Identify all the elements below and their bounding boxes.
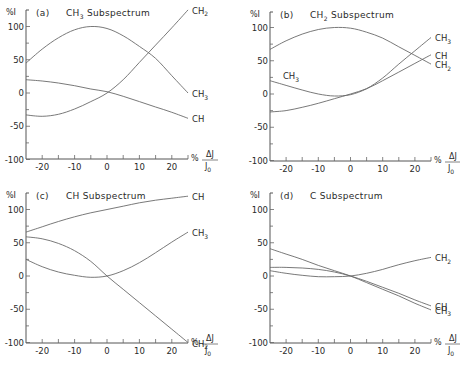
curve-label-ch3: CH3: [435, 33, 451, 45]
curve-ch3: [26, 232, 188, 277]
curve-annotation: CH3: [283, 71, 299, 83]
x-axis-label-numerator: ΔJ: [449, 334, 457, 343]
x-tick-label: 10: [134, 162, 145, 172]
curve-ch2: [26, 10, 188, 116]
x-tick-label: 0: [104, 162, 109, 172]
x-tick-label: -10: [68, 346, 82, 356]
y-tick-label: -50: [10, 121, 24, 131]
panel-tag: (b): [280, 10, 294, 20]
x-tick-label: 10: [377, 164, 388, 174]
curve-ch: [270, 267, 431, 306]
x-tick-label: 20: [166, 346, 177, 356]
panel-b: -100-50050100-20-1001020%I%ΔJJ0(b)CH2 Su…: [249, 10, 460, 175]
x-tick-label: 10: [377, 346, 388, 356]
y-tick-label: 100: [8, 205, 24, 215]
y-tick-label: -100: [5, 155, 24, 165]
panel-title: CH3 Subspectrum: [66, 8, 150, 20]
y-tick-label: -50: [10, 304, 24, 314]
x-tick-label: 20: [166, 162, 177, 172]
y-tick-label: 0: [19, 271, 24, 281]
y-tick-label: -100: [5, 338, 24, 348]
panel-c: -100-50050100-20-1001020%I%ΔJJ0(c)CH Sub…: [5, 191, 218, 357]
curve-ch3: [270, 38, 431, 97]
x-tick-label: 10: [134, 346, 145, 356]
subspectra-chart-grid: -100-50050100-20-1001020%I%ΔJJ0(a)CH3 Su…: [0, 0, 460, 367]
curve-ch3: [270, 249, 431, 310]
y-tick-label: 100: [252, 23, 268, 33]
x-axis-label-denominator: J0: [204, 162, 211, 173]
curve-label-ch3: CH3: [435, 306, 451, 318]
x-tick-label: -20: [35, 346, 49, 356]
curve-label-ch3: CH3: [192, 89, 208, 101]
x-tick-label: -10: [68, 162, 82, 172]
x-tick-label: -10: [311, 164, 325, 174]
panel-title: C Subspectrum: [310, 191, 383, 201]
x-axis-label-numerator: ΔJ: [206, 150, 214, 159]
x-tick-label: 20: [409, 346, 420, 356]
y-tick-label: 100: [8, 22, 24, 32]
curve-label-ch2: CH2: [435, 253, 451, 265]
x-tick-label: -20: [279, 164, 293, 174]
x-tick-label: 0: [348, 164, 353, 174]
x-tick-label: 20: [409, 164, 420, 174]
x-tick-label: -20: [279, 346, 293, 356]
y-tick-label: -100: [249, 338, 268, 348]
curve-ch: [270, 55, 431, 112]
y-axis-label: %I: [250, 191, 260, 200]
panel-tag: (d): [280, 191, 294, 201]
panel-title: CH2 Subspectrum: [310, 10, 394, 22]
curve-label-ch3: CH3: [192, 228, 208, 240]
panel-d: -100-50050100-20-1001020%I%ΔJJ0(d)C Subs…: [249, 191, 460, 357]
x-tick-label: -10: [311, 346, 325, 356]
curve-label-ch2: CH2: [192, 6, 208, 18]
y-tick-label: 0: [19, 88, 24, 98]
x-axis-label-percent: %: [434, 156, 442, 165]
x-axis-label-percent: %: [434, 338, 442, 347]
y-tick-label: -100: [249, 156, 268, 166]
y-tick-label: 50: [257, 238, 268, 248]
x-tick-label: 0: [104, 346, 109, 356]
y-tick-label: -50: [254, 304, 268, 314]
y-axis-label: %I: [6, 8, 16, 17]
y-tick-label: 50: [257, 56, 268, 66]
curve-label-ch2: CH2: [435, 60, 451, 72]
curve-ch: [26, 80, 188, 119]
x-axis-label-numerator: ΔJ: [449, 152, 457, 161]
x-tick-label: 0: [348, 346, 353, 356]
curve-label-ch: CH: [192, 114, 204, 124]
curve-ch2: [270, 257, 431, 276]
y-tick-label: 0: [263, 271, 268, 281]
panel-a: -100-50050100-20-1001020%I%ΔJJ0(a)CH3 Su…: [5, 6, 218, 173]
curve-label-ch: CH: [192, 192, 204, 202]
x-axis-label-percent: %: [191, 154, 199, 163]
x-tick-label: -20: [35, 162, 49, 172]
y-tick-label: 0: [263, 89, 268, 99]
panel-title: CH Subspectrum: [66, 191, 146, 201]
x-axis-label-denominator: J0: [447, 164, 454, 175]
x-axis-label-numerator: ΔJ: [206, 334, 214, 343]
curve-ch2: [270, 27, 431, 64]
y-tick-label: 50: [13, 238, 24, 248]
figure: -100-50050100-20-1001020%I%ΔJJ0(a)CH3 Su…: [0, 0, 460, 367]
y-axis-label: %I: [6, 191, 16, 200]
curve-ch2: [26, 237, 188, 343]
y-axis-label: %I: [250, 10, 260, 19]
x-axis-label-denominator: J0: [447, 346, 454, 357]
y-tick-label: 100: [252, 205, 268, 215]
curve-ch: [26, 196, 188, 232]
panel-tag: (c): [36, 191, 49, 201]
y-tick-label: -50: [254, 122, 268, 132]
panel-tag: (a): [36, 8, 49, 18]
y-tick-label: 50: [13, 55, 24, 65]
